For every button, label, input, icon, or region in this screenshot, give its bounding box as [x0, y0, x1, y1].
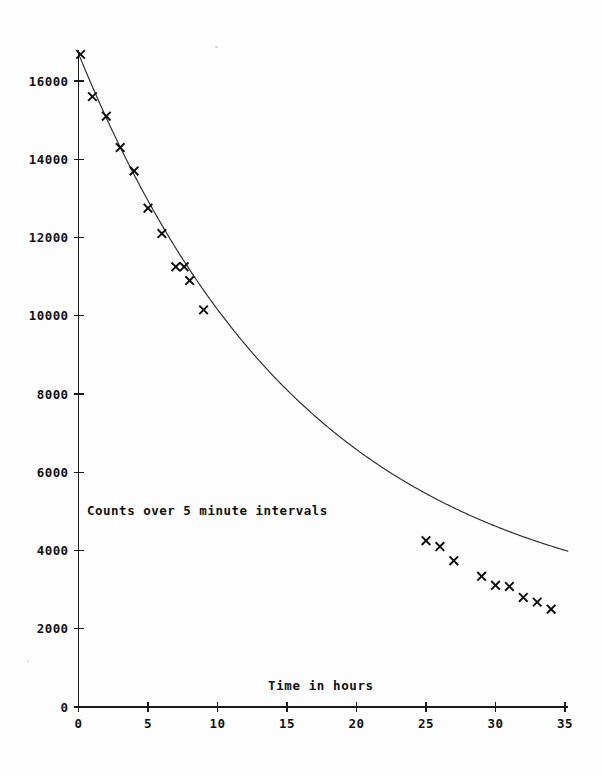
x-tick-label: 0	[75, 716, 83, 731]
x-axis-title: Time in hours	[268, 678, 374, 693]
data-point-marker	[144, 204, 153, 213]
data-point-marker	[199, 306, 208, 315]
y-tick-label: 14000	[29, 152, 69, 167]
data-point-marker	[172, 263, 181, 272]
y-tick-label: 4000	[37, 543, 69, 558]
y-tick-label: 6000	[37, 465, 69, 480]
fitted-decay-curve	[80, 57, 568, 551]
data-point-marker	[422, 536, 431, 545]
paper-speck	[215, 46, 218, 48]
data-point-marker	[88, 92, 97, 101]
data-point-marker	[158, 229, 167, 238]
data-point-marker	[450, 556, 459, 565]
x-tick-label: 35	[557, 716, 573, 731]
paper-speck	[27, 660, 29, 662]
plot-annotation: Counts over 5 minute intervals	[87, 503, 328, 518]
data-point-marker	[185, 276, 194, 285]
x-tick-label: 15	[279, 716, 295, 731]
data-point-marker	[533, 598, 542, 607]
data-point-marker	[519, 593, 528, 602]
data-point-marker	[491, 581, 500, 590]
x-axis-ticks: 05101520253035	[75, 702, 573, 731]
y-tick-label: 0	[61, 700, 69, 715]
y-tick-label: 12000	[29, 230, 69, 245]
data-point-marker	[505, 582, 514, 591]
x-tick-label: 20	[349, 716, 365, 731]
chart-canvas: 0200040006000800010000120001400016000 05…	[0, 0, 602, 776]
data-point-marker	[477, 572, 486, 581]
y-tick-label: 10000	[29, 308, 69, 323]
x-tick-label: 25	[418, 716, 434, 731]
y-tick-label: 8000	[37, 387, 69, 402]
y-tick-label: 2000	[37, 621, 69, 636]
data-point-marker	[102, 112, 111, 121]
data-point-markers	[76, 50, 555, 613]
data-point-marker	[547, 605, 556, 614]
x-tick-label: 5	[144, 716, 152, 731]
x-tick-label: 10	[210, 716, 226, 731]
x-tick-label: 30	[488, 716, 504, 731]
decay-plot-svg: 0200040006000800010000120001400016000 05…	[0, 0, 602, 776]
y-axis-ticks: 0200040006000800010000120001400016000	[29, 74, 84, 715]
data-point-marker	[436, 542, 445, 551]
data-point-marker	[116, 143, 125, 152]
y-tick-label: 16000	[29, 74, 69, 89]
